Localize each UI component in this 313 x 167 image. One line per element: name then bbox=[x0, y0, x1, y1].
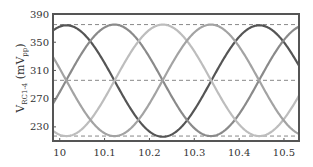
chart: 1010.110.210.310.410.5 230270310350390 V… bbox=[0, 0, 313, 167]
x-tick-label: 10.2 bbox=[138, 147, 160, 158]
y-axis-label: VRC1-4 (mVpp) bbox=[14, 43, 29, 113]
x-tick-label: 10.5 bbox=[273, 147, 295, 158]
x-tick-label: 10.3 bbox=[183, 147, 205, 158]
x-tick-label: 10 bbox=[53, 147, 66, 158]
x-tick-label: 10.1 bbox=[93, 147, 115, 158]
y-tick-label: 310 bbox=[30, 65, 49, 76]
y-tick-label: 350 bbox=[30, 37, 49, 48]
x-tick-label: 10.4 bbox=[228, 147, 250, 158]
y-tick-label: 390 bbox=[30, 9, 49, 20]
y-tick-label: 230 bbox=[30, 121, 49, 132]
y-tick-label: 270 bbox=[30, 93, 49, 104]
